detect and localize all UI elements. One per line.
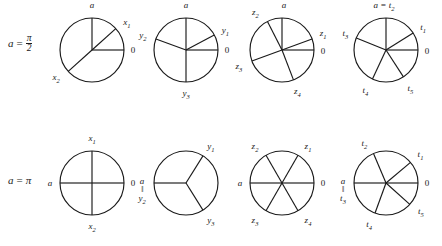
radius-z3-subscript: 3 <box>255 220 258 227</box>
radius-t3 <box>356 38 386 50</box>
circle-7-z <box>250 151 314 215</box>
radius-z4-label: z4 <box>305 216 312 227</box>
radius-a-label: a <box>282 1 287 10</box>
stacked-label-subscript: 2 <box>142 198 145 205</box>
fraction-denominator: 2 <box>26 43 33 54</box>
radius-z2-label: z2 <box>252 8 259 19</box>
radius-x1-subscript: 1 <box>92 138 95 145</box>
stacked-label-bottom: t3 <box>340 194 346 205</box>
radius-t2-label: t2 <box>362 139 368 150</box>
radius-t4 <box>372 50 386 79</box>
radius-z1-label: z1 <box>320 29 327 40</box>
radius-a-t2-subscript: 2 <box>391 5 394 12</box>
radius-y3-subscript: 3 <box>211 220 214 227</box>
radius-0-label: 0 <box>131 179 136 188</box>
circle-3-z <box>250 18 314 82</box>
radius-y3-label: y3 <box>207 216 214 227</box>
radius-z3 <box>252 50 282 61</box>
radius-z4 <box>282 183 298 211</box>
radius-y1-label: y1 <box>222 26 229 37</box>
radius-z3-label: z3 <box>252 216 259 227</box>
radius-t5-subscript: 5 <box>410 88 413 95</box>
radius-y1-subscript: 1 <box>226 30 229 37</box>
radius-z1-subscript: 1 <box>308 146 311 153</box>
radius-z4 <box>282 50 293 80</box>
row-equation-equals: = <box>14 37 26 49</box>
radius-t4-subscript: 4 <box>365 90 368 97</box>
radius-a-label: a <box>48 179 53 188</box>
radius-a-label: a <box>184 1 189 10</box>
radius-x2-label: x2 <box>88 222 95 233</box>
row-equation-lhs: a <box>8 37 14 49</box>
radius-t4 <box>375 183 386 213</box>
radius-t2-subscript: 2 <box>364 142 367 149</box>
row-equation-row-half-pi: a=π2 <box>8 34 32 55</box>
row-equation-lhs: a <box>8 174 14 186</box>
radius-z1 <box>282 155 298 183</box>
circle-4-t <box>354 18 418 82</box>
radius-z2-label: z2 <box>252 142 259 153</box>
radius-t1 <box>386 162 411 183</box>
radius-0-label: 0 <box>321 47 326 56</box>
circle-2-y <box>154 18 218 82</box>
radius-x2-subscript: 2 <box>57 77 60 84</box>
radius-t4-subscript: 4 <box>369 224 372 231</box>
radius-z3-subscript: 3 <box>239 66 242 73</box>
radius-y1-subscript: 1 <box>211 146 214 153</box>
radius-0-label: 0 <box>321 179 326 188</box>
radius-t5-subscript: 5 <box>420 211 423 218</box>
radius-y3-label: y3 <box>182 89 189 100</box>
stacked-label-subscript: 3 <box>343 198 346 205</box>
fraction-numerator: π <box>26 34 33 44</box>
radius-t4-label: t4 <box>366 220 372 231</box>
radius-z2-subscript: 2 <box>256 12 259 19</box>
stacked-label-bottom: y2 <box>138 194 145 205</box>
radius-z3-label: z3 <box>236 62 243 73</box>
radius-t1-subscript: 1 <box>420 154 423 161</box>
radius-0-label: 0 <box>425 47 430 56</box>
circle-8-t <box>354 151 418 215</box>
radius-y3 <box>186 183 203 210</box>
radius-0-label: 0 <box>425 179 430 188</box>
radius-t3-label: t3 <box>342 29 348 40</box>
radius-y2 <box>156 39 186 50</box>
radius-y1-label: y1 <box>207 142 214 153</box>
radius-y2-label: y2 <box>139 31 146 42</box>
radius-a-t2-label: a = t2 <box>374 1 395 12</box>
label-a-eq-y2: a‖y2 <box>138 177 145 206</box>
radius-x1-label: x1 <box>123 18 130 29</box>
radius-0-label: 0 <box>225 46 230 55</box>
radius-z2 <box>266 155 282 183</box>
row-equation-equals: = <box>14 174 26 186</box>
radius-y3-subscript: 3 <box>186 93 189 100</box>
radius-t4-label: t4 <box>363 86 369 97</box>
radius-x1 <box>92 29 116 50</box>
row-equation-fraction: π2 <box>26 34 33 55</box>
radius-z1-label: z1 <box>305 142 312 153</box>
radius-t1-label: t1 <box>420 23 426 34</box>
radius-y1 <box>186 35 214 50</box>
radius-t1 <box>386 33 413 50</box>
radius-t5 <box>386 183 410 204</box>
radius-x1-subscript: 1 <box>127 21 130 28</box>
radius-z4-subscript: 4 <box>298 91 301 98</box>
radius-t2 <box>373 154 386 183</box>
radius-z2-subscript: 2 <box>255 146 258 153</box>
radius-x2-label: x2 <box>53 73 60 84</box>
radius-0-label: 0 <box>131 46 136 55</box>
radius-t1-subscript: 1 <box>423 27 426 34</box>
circle-1-x <box>60 18 124 82</box>
row-equation-row-pi: a=π <box>8 175 31 186</box>
row-equation-rhs: π <box>26 174 32 186</box>
radius-y2-subscript: 2 <box>143 35 146 42</box>
radius-z4-subscript: 4 <box>308 220 311 227</box>
radius-z3 <box>266 183 282 211</box>
radius-t3-subscript: 3 <box>345 33 348 40</box>
radius-a-label: a <box>238 179 243 188</box>
radius-z2 <box>267 21 282 50</box>
circle-5-x <box>60 151 124 215</box>
radius-x2 <box>68 50 92 71</box>
radius-t5-label: t5 <box>418 207 424 218</box>
radius-y1 <box>186 156 203 183</box>
radius-x2-subscript: 2 <box>92 226 95 233</box>
